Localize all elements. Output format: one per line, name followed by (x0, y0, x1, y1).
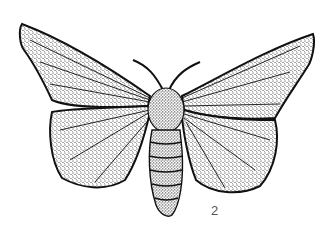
moth-illustration (0, 0, 330, 238)
thorax (148, 88, 184, 132)
right-antenna-icon (169, 62, 200, 90)
figure-number-label: 2 (211, 203, 218, 218)
left-hindwing (50, 106, 150, 187)
left-forewing (20, 24, 150, 107)
left-antenna-icon (133, 60, 163, 90)
